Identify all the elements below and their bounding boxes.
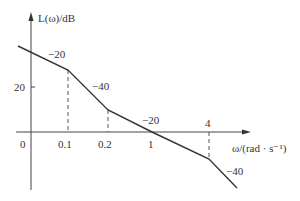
origin-label: 0: [20, 138, 26, 150]
slope-label-4: −40: [226, 165, 244, 177]
x-tick-1-label: 1: [148, 138, 154, 150]
slope-label-3: −20: [142, 114, 160, 126]
x-tick-4-label: 4: [205, 117, 211, 129]
bode-plot: L(ω)/dB ω/(rad · s⁻¹) 0 20 0.1 0.2 1 4 −…: [0, 0, 300, 201]
x-axis-label: ω/(rad · s⁻¹): [232, 142, 287, 155]
slope-label-2: −40: [92, 80, 110, 92]
y-axis-label: L(ω)/dB: [38, 12, 75, 25]
y-tick-20-label: 20: [14, 81, 26, 93]
slope-label-1: −20: [48, 48, 66, 60]
y-axis-arrow-icon: [29, 12, 34, 21]
x-axis-arrow-icon: [242, 130, 251, 135]
bode-diagram: L(ω)/dB ω/(rad · s⁻¹) 0 20 0.1 0.2 1 4 −…: [0, 0, 300, 201]
x-tick-0.2-label: 0.2: [98, 138, 112, 150]
x-tick-0.1-label: 0.1: [58, 138, 72, 150]
